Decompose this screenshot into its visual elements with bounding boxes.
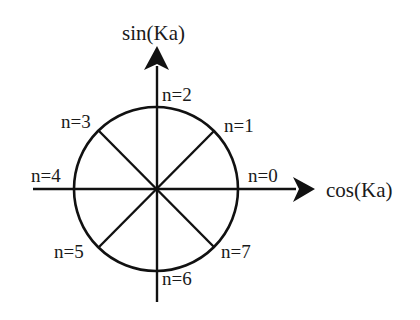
unit-circle-diagram: sin(Ka) cos(Ka) n=0 n=1 n=2 n=3 n=4 n=5 … bbox=[0, 0, 420, 320]
point-label-n7: n=7 bbox=[221, 241, 251, 262]
point-label-n1: n=1 bbox=[224, 115, 254, 136]
point-label-n0: n=0 bbox=[248, 165, 278, 186]
point-label-n2: n=2 bbox=[162, 84, 192, 105]
x-axis-label: cos(Ka) bbox=[326, 178, 392, 202]
y-axis-label: sin(Ka) bbox=[122, 21, 185, 45]
point-label-n5: n=5 bbox=[54, 241, 84, 262]
x-axis-arrow-icon bbox=[293, 177, 315, 202]
point-label-n3: n=3 bbox=[61, 111, 91, 132]
point-label-n4: n=4 bbox=[31, 165, 61, 186]
point-label-n6: n=6 bbox=[162, 268, 192, 289]
